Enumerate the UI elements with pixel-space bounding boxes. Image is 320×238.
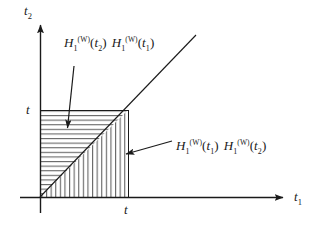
y-axis-tick-label-t: t — [26, 103, 30, 116]
x-axis-label: t1 — [294, 190, 302, 203]
upper-label-second-sup: (W) — [125, 35, 137, 44]
x-axis-tick-label-t: t — [124, 203, 128, 216]
upper-label-first-sup: (W) — [78, 35, 90, 44]
upper-left-region-label: H1(W)(t2)H1(W)(t1) — [64, 36, 154, 49]
upper-label-second-sub: 1 — [121, 44, 125, 53]
lower-label-second-sup: (W) — [237, 138, 249, 147]
arrow-to-lower-right-region — [126, 141, 172, 154]
upper-label-second-base: H — [112, 35, 122, 50]
lower-label-first-sub: 1 — [186, 147, 190, 156]
lower-label-first-sup: (W) — [190, 138, 202, 147]
diagram-canvas — [0, 0, 320, 238]
x-axis-label-sub: 1 — [298, 197, 302, 207]
lower-label-first-base: H — [176, 138, 186, 153]
lower-right-region-label: H1(W)(t1)H1(W)(t2) — [176, 139, 266, 152]
y-axis-label: t2 — [24, 4, 32, 17]
upper-label-first-sub: 1 — [74, 44, 78, 53]
upper-label-first-base: H — [64, 35, 74, 50]
y-axis-label-sub: 2 — [28, 11, 32, 21]
lower-label-second-base: H — [224, 138, 234, 153]
lower-label-second-sub: 1 — [233, 147, 237, 156]
figure-container: H1(W)(t2)H1(W)(t1) H1(W)(t1)H1(W)(t2) t2… — [0, 0, 320, 238]
